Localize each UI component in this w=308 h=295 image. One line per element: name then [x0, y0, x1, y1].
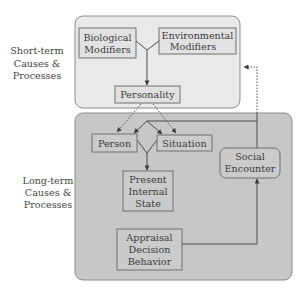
node-label: Present: [129, 174, 166, 185]
node-biological-modifiers: Biological Modifiers: [79, 28, 136, 58]
node-label: Decision: [129, 244, 171, 255]
short-term-label: Short-term Causes & Processes: [10, 45, 63, 81]
node-label: Person: [98, 138, 131, 149]
node-label: Social: [235, 151, 265, 162]
node-environmental-modifiers: Environmental Modifiers: [159, 28, 236, 54]
node-label: Internal: [128, 186, 167, 197]
long-term-label: Long-term Causes & Processes: [23, 175, 74, 210]
short-term-label-line: Causes &: [14, 58, 61, 69]
edge-social-encounter-to-short-term: [244, 67, 257, 113]
node-label: Modifiers: [170, 41, 216, 52]
node-personality: Personality: [115, 86, 180, 103]
node-social-encounter: Social Encounter: [220, 148, 280, 178]
long-term-label-line: Long-term: [23, 175, 74, 186]
node-label: State: [135, 198, 161, 209]
long-term-label-line: Processes: [24, 199, 72, 210]
node-label: Behavior: [128, 256, 172, 267]
node-label: Biological: [83, 32, 131, 43]
node-label: Modifiers: [84, 44, 130, 55]
node-label: Environmental: [162, 30, 234, 41]
node-label: Encounter: [225, 163, 276, 174]
diagram-canvas: Short-term Causes & Processes Long-term …: [0, 0, 308, 295]
node-situation: Situation: [157, 135, 212, 151]
node-appraisal-decision-behavior: Appraisal Decision Behavior: [117, 229, 182, 270]
node-label: Personality: [120, 89, 175, 100]
short-term-label-line: Short-term: [10, 45, 63, 56]
node-label: Appraisal: [125, 232, 172, 243]
short-term-label-line: Processes: [13, 70, 61, 81]
node-label: Situation: [162, 138, 206, 149]
node-present-internal-state: Present Internal State: [123, 171, 173, 211]
node-person: Person: [92, 134, 137, 152]
long-term-label-line: Causes &: [25, 187, 72, 198]
